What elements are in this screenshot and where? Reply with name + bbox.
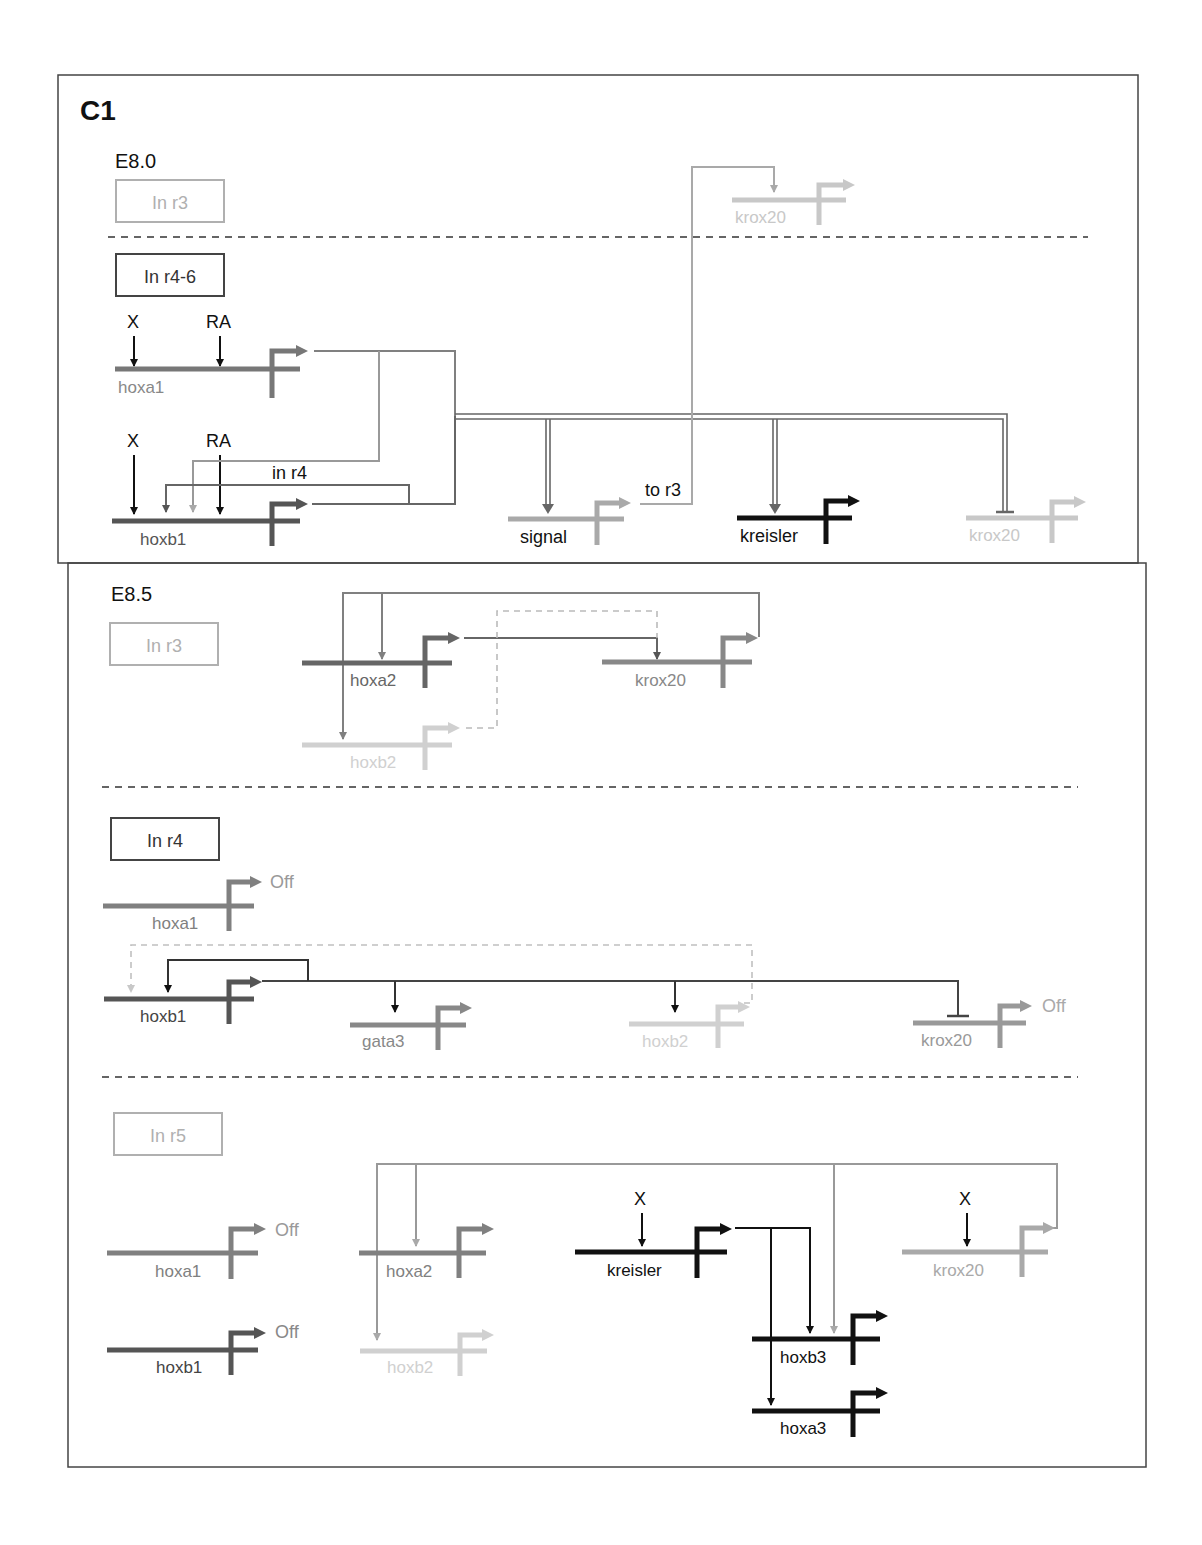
svg-text:hoxa1: hoxa1 [152,914,198,933]
stage-label-e85: E8.5 [111,583,152,605]
svg-text:kreisler: kreisler [740,526,798,546]
svg-text:hoxa1: hoxa1 [155,1262,201,1281]
combined-output-bus [455,414,1007,512]
stage-label-e80: E8.0 [115,150,156,172]
svg-text:kreisler: kreisler [607,1261,662,1280]
svg-text:hoxb2: hoxb2 [387,1358,433,1377]
svg-text:hoxa2: hoxa2 [386,1262,432,1281]
gene-hoxa1: hoxa1 Off [107,1220,300,1281]
region-label-r4: In r4 [147,831,183,851]
gene-kreisler: kreisler [575,1223,732,1280]
krox20-feedback-line [343,593,759,739]
svg-text:krox20: krox20 [735,208,786,227]
gene-hoxb3: hoxb3 [752,1310,888,1367]
gene-krox20: krox20 Off [913,996,1067,1050]
hoxa1-output-line [314,351,455,416]
input-x-label: X [127,312,139,332]
svg-text:hoxa3: hoxa3 [780,1419,826,1438]
gene-hoxb1: hoxb1 [112,498,308,549]
gene-hoxa2: hoxa2 [359,1223,494,1281]
hoxb1-autoregulation-arrow [168,960,308,992]
input-ra-label: RA [206,312,231,332]
gene-krox20: krox20 [966,496,1086,545]
gene-krox20: krox20 [732,179,855,227]
region-label-r3: In r3 [146,636,182,656]
hoxb2-to-krox20-dashed [466,611,657,728]
svg-text:hoxa2: hoxa2 [350,671,396,690]
status-off: Off [1042,996,1067,1016]
gene-signal: signal [508,497,631,547]
gene-hoxb1: hoxb1 [104,976,262,1026]
gene-kreisler: kreisler [737,495,860,546]
gene-hoxb2: hoxb2 [360,1329,494,1377]
gene-hoxb2: hoxb2 [629,1001,750,1051]
gene-regulatory-network-diagram: C1 E8.0 In r3 In r4-6 krox20 X RA hoxa1 … [0,0,1202,1545]
gene-hoxa3: hoxa3 [752,1387,888,1438]
annotation-in-r4: in r4 [272,463,307,483]
gene-hoxb2: hoxb2 [302,722,460,772]
gene-krox20: krox20 [602,632,758,690]
input-x-label: X [634,1189,646,1209]
arrowhead [769,504,781,514]
svg-text:hoxb1: hoxb1 [140,530,186,549]
hoxb2-to-hoxb1-dashed [131,945,752,1003]
svg-text:hoxb3: hoxb3 [780,1348,826,1367]
hoxb1-autoregulation-arrow [166,485,409,512]
gene-hoxb1: hoxb1 Off [107,1322,300,1377]
gene-gata3: gata3 [350,1002,472,1051]
svg-text:krox20: krox20 [635,671,686,690]
svg-text:hoxb2: hoxb2 [350,753,396,772]
status-off: Off [275,1322,300,1342]
input-ra-label: RA [206,431,231,451]
svg-text:signal: signal [520,527,567,547]
input-x-label: X [959,1189,971,1209]
svg-text:gata3: gata3 [362,1032,405,1051]
gene-krox20: krox20 [902,1222,1055,1280]
region-label-r4-6: In r4-6 [144,267,196,287]
gene-hoxa1: hoxa1 [115,345,308,398]
svg-text:krox20: krox20 [921,1031,972,1050]
svg-text:krox20: krox20 [969,526,1020,545]
panel-label: C1 [80,95,116,126]
annotation-to-r3: to r3 [645,480,681,500]
arrowhead [542,504,554,514]
hoxb1-output-line [262,981,958,1016]
svg-text:hoxa1: hoxa1 [118,378,164,397]
svg-text:hoxb1: hoxb1 [156,1358,202,1377]
status-off: Off [275,1220,300,1240]
svg-text:hoxb2: hoxb2 [642,1032,688,1051]
region-label-r3: In r3 [152,193,188,213]
input-x-label: X [127,431,139,451]
region-label-r5: In r5 [150,1126,186,1146]
svg-text:krox20: krox20 [933,1261,984,1280]
status-off: Off [270,872,295,892]
svg-text:hoxb1: hoxb1 [140,1007,186,1026]
gene-hoxa1: hoxa1 Off [103,872,295,933]
hoxa2-to-krox20-arrow [464,638,657,659]
kreisler-to-hoxb3-arrow [735,1228,810,1333]
